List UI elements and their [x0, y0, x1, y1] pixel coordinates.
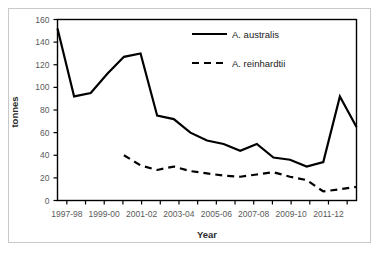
x-tick-label: 1999-00: [89, 209, 120, 219]
x-tick-label: 2003-04: [163, 209, 194, 219]
y-tick-label: 140: [35, 37, 49, 47]
x-tick-label: 2009-10: [275, 209, 306, 219]
y-tick-label: 80: [40, 105, 50, 115]
x-tick-label: 2001-02: [126, 209, 157, 219]
y-tick-label: 60: [40, 128, 50, 138]
legend-label-a-reinhardtii: A. reinhardtii: [232, 58, 285, 69]
line-chart: 020406080100120140160 1997-981999-002001…: [0, 0, 381, 259]
series-line-a-reinhardtii: [124, 155, 357, 191]
y-tick-label: 40: [40, 150, 50, 160]
chart-figure: 020406080100120140160 1997-981999-002001…: [0, 0, 381, 259]
y-axis-tick-labels: 020406080100120140160: [35, 15, 49, 206]
x-tick-label: 2011-12: [313, 209, 344, 219]
y-tick-label: 160: [35, 15, 49, 25]
x-tick-label: 2005-06: [201, 209, 232, 219]
legend-label-a-australis: A. australis: [232, 29, 279, 40]
x-tick-label: 2007-08: [238, 209, 269, 219]
y-tick-label: 20: [40, 173, 50, 183]
series-line-a-australis: [58, 29, 357, 167]
y-tick-label: 120: [35, 60, 49, 70]
y-axis-title: tonnes: [9, 96, 20, 127]
y-tick-label: 0: [45, 196, 50, 206]
legend: A. australis A. reinhardtii: [192, 29, 285, 69]
x-axis-tick-labels: 1997-981999-002001-022003-042005-062007-…: [51, 209, 344, 219]
x-tick-label: 1997-98: [51, 209, 82, 219]
y-tick-label: 100: [35, 82, 49, 92]
x-axis-title: Year: [197, 229, 217, 240]
